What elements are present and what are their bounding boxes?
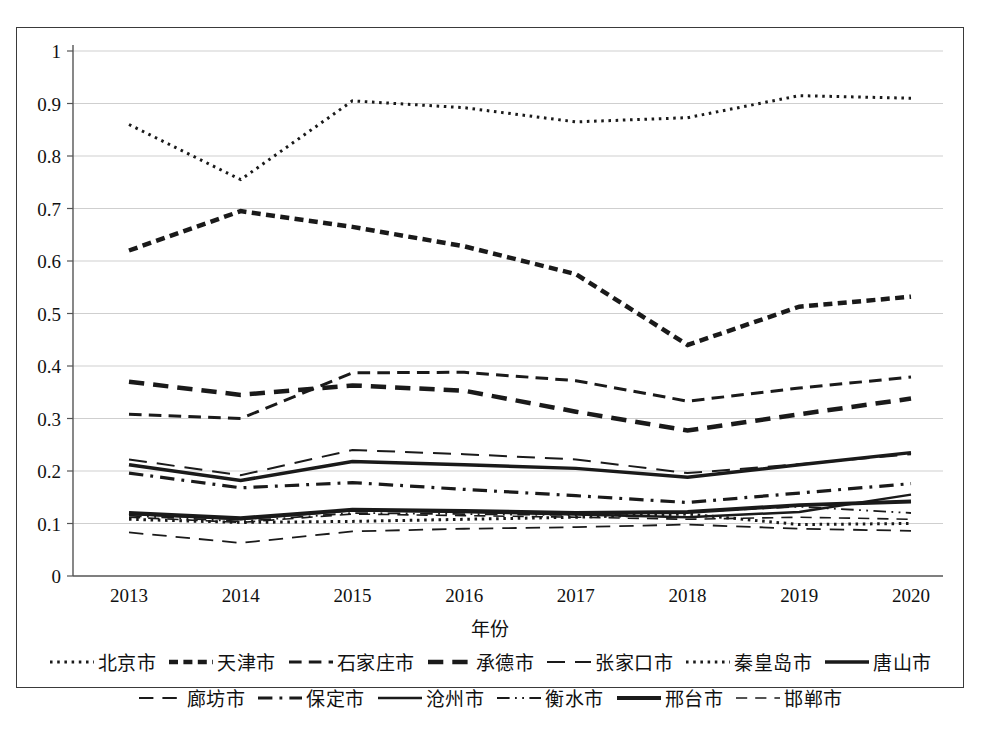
legend-item-承德市[interactable]: 承德市 [427,648,535,675]
legend-key-icon [824,655,870,669]
series-line [129,473,911,502]
x-axis-title: 年份 [17,614,963,641]
legend-label: 保定市 [306,684,365,711]
legend-key-icon [257,691,303,705]
x-axis-tick-label: 2016 [414,586,514,605]
legend-key-icon [616,691,662,705]
y-axis-tick-label: 0.7 [17,200,61,219]
legend-label: 天津市 [217,648,276,675]
y-axis-tick-label: 0.2 [17,462,61,481]
legend-item-天津市[interactable]: 天津市 [168,648,276,675]
legend-item-沧州市[interactable]: 沧州市 [377,684,485,711]
legend-item-廊坊市[interactable]: 廊坊市 [138,684,246,711]
legend-row-1: 北京市天津市石家庄市承德市张家口市秦皇岛市唐山市 [43,648,938,675]
legend-key-icon [49,655,95,669]
legend-label: 衡水市 [545,684,604,711]
legend-label: 石家庄市 [337,648,415,675]
legend-key-icon [546,655,592,669]
legend-key-icon [288,655,334,669]
legend-row-2: 廊坊市保定市沧州市衡水市邢台市邯郸市 [132,684,849,711]
legend-label: 北京市 [98,648,157,675]
legend-item-保定市[interactable]: 保定市 [257,684,365,711]
legend-label: 邯郸市 [784,684,843,711]
legend-label: 廊坊市 [187,684,246,711]
x-axis-tick-label: 2018 [638,586,738,605]
legend-label: 沧州市 [426,684,485,711]
x-axis-tick-label: 2019 [749,586,849,605]
series-line [129,372,911,418]
y-axis-tick-label: 0 [17,567,61,586]
x-axis-tick-label: 2020 [861,586,961,605]
chart-legend: 北京市天津市石家庄市承德市张家口市秦皇岛市唐山市 廊坊市保定市沧州市衡水市邢台市… [17,648,963,711]
legend-key-icon [735,691,781,705]
legend-label: 秦皇岛市 [734,648,812,675]
legend-label: 唐山市 [873,648,932,675]
legend-item-石家庄市[interactable]: 石家庄市 [288,648,415,675]
legend-key-icon [685,655,731,669]
series-line [129,96,911,180]
legend-label: 邢台市 [665,684,724,711]
y-axis-tick-label: 0.8 [17,147,61,166]
legend-key-icon [377,691,423,705]
figure-caption [0,712,999,741]
chart-svg [17,28,965,584]
x-axis-tick-label: 2013 [79,586,179,605]
legend-item-张家口市[interactable]: 张家口市 [546,648,673,675]
legend-key-icon [168,655,214,669]
figure-frame: 10.90.80.70.60.50.40.30.20.1020132014201… [16,27,964,688]
legend-item-邯郸市[interactable]: 邯郸市 [735,684,843,711]
legend-key-icon [427,655,473,669]
x-axis-tick-label: 2017 [526,586,626,605]
y-axis-tick-label: 0.1 [17,515,61,534]
y-axis-tick-label: 0.9 [17,95,61,114]
y-axis-tick-label: 0.5 [17,305,61,324]
legend-item-唐山市[interactable]: 唐山市 [824,648,932,675]
series-line [129,211,911,345]
legend-key-icon [138,691,184,705]
legend-item-秦皇岛市[interactable]: 秦皇岛市 [685,648,812,675]
x-axis-tick-label: 2015 [302,586,402,605]
legend-label: 张家口市 [595,648,673,675]
series-line [129,525,911,543]
y-axis-tick-label: 1 [17,42,61,61]
legend-item-衡水市[interactable]: 衡水市 [496,684,604,711]
y-axis-tick-label: 0.4 [17,357,61,376]
x-axis-tick-label: 2014 [191,586,291,605]
plot-area: 10.90.80.70.60.50.40.30.20.1020132014201… [17,28,963,584]
y-axis-tick-label: 0.3 [17,410,61,429]
legend-label: 承德市 [476,648,535,675]
y-axis-tick-label: 0.6 [17,252,61,271]
legend-item-北京市[interactable]: 北京市 [49,648,157,675]
legend-item-邢台市[interactable]: 邢台市 [616,684,724,711]
legend-key-icon [496,691,542,705]
